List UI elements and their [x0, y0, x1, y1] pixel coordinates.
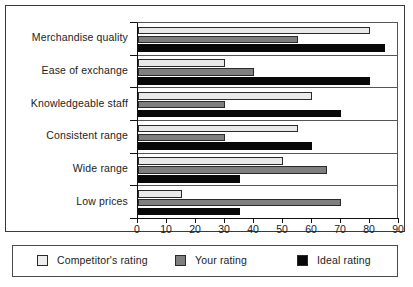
bar	[138, 27, 370, 35]
bar-group	[138, 154, 397, 187]
bar-group	[138, 121, 397, 154]
category-label-consistent-range: Consistent range	[46, 129, 128, 141]
x-tick-label: 60	[298, 223, 324, 235]
bar	[138, 92, 312, 100]
category-axis-labels: Merchandise quality Ease of exchange Kno…	[0, 22, 133, 218]
bar	[138, 134, 225, 142]
category-label-ease-of-exchange: Ease of exchange	[42, 64, 128, 76]
x-tick-label: 10	[153, 223, 179, 235]
x-tick-label: 30	[211, 223, 237, 235]
legend-label-ideal-rating: Ideal rating	[317, 254, 371, 266]
legend-label-competitors-rating: Competitor's rating	[57, 254, 148, 266]
category-label-merchandise-quality: Merchandise quality	[32, 31, 128, 43]
legend-swatch-ideal-rating	[297, 255, 308, 266]
legend-item-your-rating: Your rating	[175, 254, 247, 266]
y-tick	[130, 153, 137, 154]
bar	[138, 166, 327, 174]
chart-legend: Competitor's rating Your rating Ideal ra…	[12, 245, 398, 277]
legend-swatch-your-rating	[175, 255, 186, 266]
x-tick-label: 90	[385, 223, 411, 235]
x-tick-label: 80	[356, 223, 382, 235]
bar	[138, 77, 370, 85]
category-label-wide-range: Wide range	[73, 162, 128, 174]
bar	[138, 157, 283, 165]
x-axis-line	[137, 218, 398, 219]
x-tick-label: 0	[124, 223, 150, 235]
bar	[138, 190, 182, 198]
x-tick-label: 50	[269, 223, 295, 235]
legend-item-ideal-rating: Ideal rating	[297, 254, 371, 266]
y-tick	[130, 218, 137, 219]
bar	[138, 175, 240, 183]
x-tick-label: 40	[240, 223, 266, 235]
bar	[138, 142, 312, 150]
bar-group	[138, 186, 397, 219]
category-label-knowledgeable-staff: Knowledgeable staff	[31, 97, 128, 109]
bar	[138, 68, 254, 76]
x-tick-label: 20	[182, 223, 208, 235]
bar-group	[138, 23, 397, 56]
legend-swatch-competitors-rating	[37, 255, 48, 266]
bar	[138, 59, 225, 67]
legend-item-competitors-rating: Competitor's rating	[37, 254, 148, 266]
legend-label-your-rating: Your rating	[195, 254, 247, 266]
bar	[138, 199, 341, 207]
y-tick	[130, 55, 137, 56]
bar	[138, 101, 225, 109]
bar-group	[138, 56, 397, 89]
chart-figure: Merchandise quality Ease of exchange Kno…	[0, 0, 413, 287]
y-tick	[130, 87, 137, 88]
bar	[138, 110, 341, 118]
category-label-low-prices: Low prices	[76, 195, 128, 207]
y-tick	[130, 120, 137, 121]
y-tick	[130, 185, 137, 186]
bar	[138, 36, 298, 44]
bar	[138, 44, 385, 52]
x-tick-label: 70	[327, 223, 353, 235]
y-tick	[130, 22, 137, 23]
bar-group	[138, 88, 397, 121]
bar	[138, 208, 240, 216]
bar	[138, 125, 298, 133]
plot-area	[137, 22, 398, 218]
